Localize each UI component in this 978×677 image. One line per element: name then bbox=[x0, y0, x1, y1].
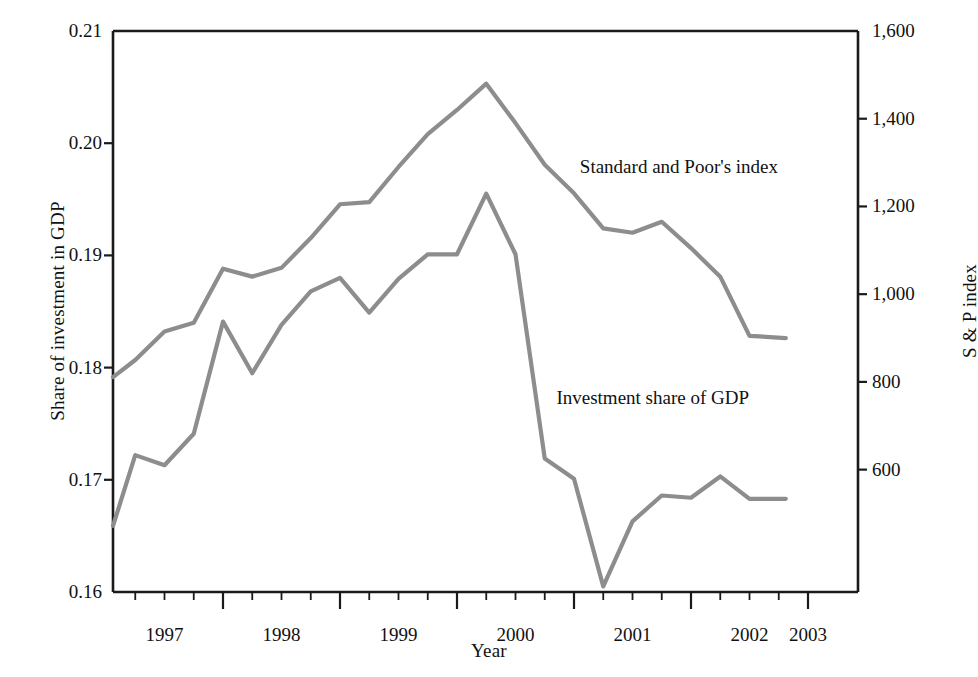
series-line-sp-index bbox=[113, 84, 786, 377]
y-tick-label-left-0.17: 0.17 bbox=[18, 469, 102, 491]
chart-figure: Share of investment in GDP S & P index Y… bbox=[0, 0, 978, 677]
y-tick-label-left-0.19: 0.19 bbox=[18, 244, 102, 266]
x-tick-label-2003: 2003 bbox=[789, 624, 827, 646]
y-tick-label-left-0.20: 0.20 bbox=[18, 132, 102, 154]
y-tick-label-left-0.16: 0.16 bbox=[18, 581, 102, 603]
x-tick-label-2000: 2000 bbox=[497, 624, 535, 646]
x-tick-label-2002: 2002 bbox=[731, 624, 769, 646]
y-tick-label-left-0.21: 0.21 bbox=[18, 20, 102, 42]
series-label-investment-share: Investment share of GDP bbox=[556, 387, 749, 409]
y-tick-label-right-600: 600 bbox=[872, 459, 952, 481]
y-tick-label-right-800: 800 bbox=[872, 371, 952, 393]
x-tick-label-2001: 2001 bbox=[614, 624, 652, 646]
y-axis-left-title: Share of investment in GDP bbox=[47, 161, 69, 461]
x-tick-label-1999: 1999 bbox=[380, 624, 418, 646]
y-tick-label-right-1,600: 1,600 bbox=[872, 20, 952, 42]
y-axis-right-title: S & P index bbox=[959, 161, 978, 461]
y-tick-label-right-1,400: 1,400 bbox=[872, 108, 952, 130]
x-tick-label-1997: 1997 bbox=[146, 624, 184, 646]
x-tick-label-1998: 1998 bbox=[263, 624, 301, 646]
y-tick-label-left-0.18: 0.18 bbox=[18, 357, 102, 379]
chart-plot-area bbox=[0, 0, 978, 677]
y-tick-label-right-1,200: 1,200 bbox=[872, 195, 952, 217]
y-tick-label-right-1,000: 1,000 bbox=[872, 283, 952, 305]
series-label-sp-index: Standard and Poor's index bbox=[580, 156, 778, 178]
